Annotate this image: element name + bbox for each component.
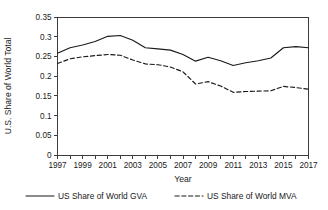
y-axis-ticks: 00.050.10.150.20.250.30.35	[36, 13, 58, 160]
data-series-group	[58, 36, 309, 93]
y-tick-label: 0.05	[36, 131, 52, 140]
series-line-1	[58, 54, 309, 92]
x-axis-ticks: 1997199920012003200520072009201120132015…	[48, 155, 318, 170]
y-tick-label: 0.15	[36, 92, 52, 101]
x-tick-label: 2003	[124, 161, 143, 170]
y-tick-label: 0	[47, 151, 52, 160]
x-tick-label: 2007	[174, 161, 193, 170]
legend-label-0: US Share of World GVA	[58, 191, 147, 201]
y-tick-label: 0.3	[40, 33, 52, 42]
y-tick-label: 0.2	[40, 72, 52, 81]
x-axis-title: Year	[174, 174, 192, 184]
x-tick-label: 2017	[299, 161, 318, 170]
x-tick-label: 1999	[73, 161, 92, 170]
x-tick-label: 2009	[199, 161, 218, 170]
chart-figure: 00.050.10.150.20.250.30.35 1997199920012…	[0, 0, 328, 210]
x-tick-label: 2011	[224, 161, 242, 170]
x-tick-label: 2013	[249, 161, 268, 170]
chart-legend: US Share of World GVAUS Share of World M…	[26, 191, 297, 201]
legend-label-1: US Share of World MVA	[207, 191, 297, 201]
x-tick-label: 2005	[149, 161, 168, 170]
y-axis-title: U.S. Share of World Total	[3, 38, 13, 135]
series-line-0	[58, 36, 309, 66]
x-tick-label: 1997	[48, 161, 67, 170]
x-tick-label: 2015	[274, 161, 293, 170]
x-tick-label: 2001	[99, 161, 118, 170]
y-tick-label: 0.25	[36, 52, 52, 61]
axis-lines	[58, 17, 309, 155]
line-chart: 00.050.10.150.20.250.30.35 1997199920012…	[0, 0, 328, 210]
y-tick-label: 0.35	[36, 13, 52, 22]
y-tick-label: 0.1	[40, 112, 52, 121]
